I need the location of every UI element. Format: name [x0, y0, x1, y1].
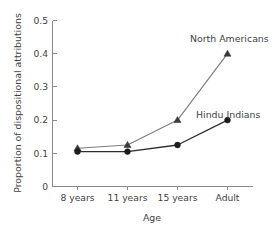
- series-hindu-indians: [75, 117, 231, 154]
- series-line-north-americans: [78, 54, 228, 149]
- x-tick-label-11-years: 11 years: [108, 192, 148, 203]
- y-tick-label-0-2: 0.2: [33, 114, 48, 125]
- line-chart: 0.5 0.4 0.3 0.2 0.1 0 8 years 11 years 1…: [0, 0, 275, 234]
- x-tick-label-15-years: 15 years: [158, 192, 198, 203]
- y-axis-ticks: 0.5 0.4 0.3 0.2 0.1 0: [33, 15, 57, 192]
- y-tick-label-0-5: 0.5: [33, 15, 48, 26]
- series-annotation-hindu-indians: Hindu Indians: [196, 109, 260, 120]
- chart-figure: 0.5 0.4 0.3 0.2 0.1 0 8 years 11 years 1…: [0, 0, 275, 234]
- data-point-north-americans-adult: [224, 50, 231, 56]
- data-point-north-americans-11-years: [124, 142, 131, 148]
- series-north-americans: [74, 50, 231, 151]
- data-point-hindu-indians-11-years: [125, 149, 131, 155]
- x-axis-title: Age: [143, 212, 161, 223]
- y-tick-label-0-1: 0.1: [33, 148, 48, 159]
- chart-axes: [53, 21, 253, 187]
- y-tick-label-0-4: 0.4: [33, 48, 48, 59]
- y-axis-title: Proportion of dispositional attributions: [12, 13, 23, 193]
- y-tick-label-0: 0: [42, 181, 48, 192]
- x-tick-label-8-years: 8 years: [60, 192, 94, 203]
- data-point-hindu-indians-15-years: [175, 142, 181, 148]
- data-point-hindu-indians-8-years: [75, 149, 81, 155]
- series-annotation-north-americans: North Americans: [190, 33, 269, 44]
- y-tick-label-0-3: 0.3: [33, 81, 48, 92]
- x-tick-label-adult: Adult: [216, 192, 240, 203]
- x-axis-ticks: 8 years 11 years 15 years Adult: [60, 187, 239, 204]
